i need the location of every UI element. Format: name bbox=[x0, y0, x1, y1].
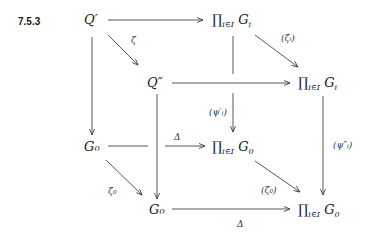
product-symbol: ∏ bbox=[212, 139, 222, 154]
label-psi-prime-i: (ψ′ᵢ) bbox=[209, 108, 227, 117]
product-index: i∈I bbox=[308, 83, 320, 92]
product-symbol: ∏ bbox=[298, 75, 308, 90]
product-symbol: ∏ bbox=[212, 12, 222, 27]
product-term-sub: i bbox=[335, 83, 338, 92]
label-delta-mid: Δ bbox=[174, 133, 181, 142]
node-q-prime: Q′ bbox=[84, 13, 98, 26]
product-term-sub: 0 bbox=[335, 210, 340, 219]
node-prod-gi-mid: ∏i∈I Gi bbox=[298, 76, 337, 92]
label-zeta-i: (ζᵢ) bbox=[281, 34, 295, 43]
node-g0-left: G₀ bbox=[84, 140, 100, 153]
node-prod-g0-bottom: ∏i∈I G0 bbox=[298, 203, 340, 219]
label-psi-double-prime-i: (ψ″ᵢ) bbox=[333, 141, 352, 150]
label-zeta: ζ bbox=[131, 36, 136, 45]
label-zeta-0: ζ₀ bbox=[108, 187, 117, 196]
node-g0-bottom: G₀ bbox=[149, 203, 165, 216]
label-delta-bottom: Δ bbox=[237, 220, 244, 229]
product-term: G bbox=[238, 139, 248, 154]
diagram-arrows bbox=[0, 0, 367, 234]
equation-number: 7.5.3 bbox=[18, 17, 40, 27]
node-q-double-prime: Q″ bbox=[147, 76, 163, 89]
product-term-sub: i bbox=[249, 20, 252, 29]
product-term: G bbox=[238, 12, 248, 27]
node-prod-gi-top: ∏i∈I Gi bbox=[212, 13, 251, 29]
node-prod-g0-mid: ∏i∈I G0 bbox=[212, 140, 254, 156]
product-index: i∈I bbox=[308, 210, 320, 219]
product-term: G bbox=[324, 202, 334, 217]
product-index: i∈I bbox=[222, 147, 234, 156]
product-term: G bbox=[324, 75, 334, 90]
product-symbol: ∏ bbox=[298, 202, 308, 217]
label-zeta-0-paren: (ζ₀) bbox=[261, 186, 277, 195]
product-term-sub: 0 bbox=[249, 147, 254, 156]
product-index: i∈I bbox=[222, 20, 234, 29]
